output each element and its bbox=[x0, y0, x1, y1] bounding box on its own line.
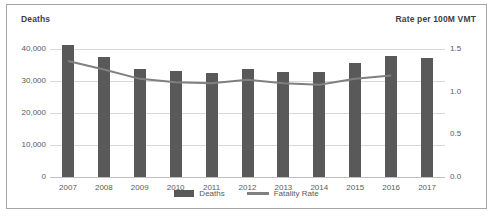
bar bbox=[421, 58, 433, 177]
bar-series-deaths bbox=[50, 49, 445, 177]
left-axis-title: Deaths bbox=[21, 14, 50, 24]
legend-bar-swatch-icon bbox=[174, 190, 194, 197]
right-axis-tick-label: 0.5 bbox=[450, 130, 461, 138]
chart-legend: DeathsFatality Rate bbox=[7, 189, 486, 198]
bar bbox=[170, 71, 182, 177]
bar bbox=[313, 72, 325, 177]
gridline bbox=[50, 177, 445, 178]
bar bbox=[62, 45, 74, 177]
bar bbox=[98, 57, 110, 177]
left-axis-tick-label: 40,000 bbox=[22, 45, 46, 53]
right-axis-tick-label: 0.0 bbox=[450, 173, 461, 181]
bar bbox=[277, 72, 289, 177]
legend-item: Fatality Rate bbox=[247, 189, 319, 198]
right-axis-tick-label: 1.5 bbox=[450, 45, 461, 53]
left-axis-tick-label: 20,000 bbox=[22, 109, 46, 117]
legend-item: Deaths bbox=[174, 189, 224, 198]
bar bbox=[242, 69, 254, 177]
left-axis-tick-label: 0 bbox=[42, 173, 46, 181]
bar bbox=[385, 56, 397, 177]
legend-line-swatch-icon bbox=[247, 192, 269, 195]
legend-label: Fatality Rate bbox=[274, 189, 319, 198]
bar bbox=[206, 73, 218, 177]
right-axis-tick-label: 1.0 bbox=[450, 88, 461, 96]
right-axis-title: Rate per 100M VMT bbox=[396, 14, 477, 24]
left-axis-tick-label: 10,000 bbox=[22, 141, 46, 149]
chart-container: Deaths Rate per 100M VMT 010,00020,00030… bbox=[6, 4, 487, 209]
bar bbox=[349, 63, 361, 177]
legend-label: Deaths bbox=[199, 189, 224, 198]
plot-area: 010,00020,00030,00040,000 0.00.51.01.5 2… bbox=[50, 49, 445, 177]
bar bbox=[134, 69, 146, 177]
left-axis-tick-label: 30,000 bbox=[22, 77, 46, 85]
